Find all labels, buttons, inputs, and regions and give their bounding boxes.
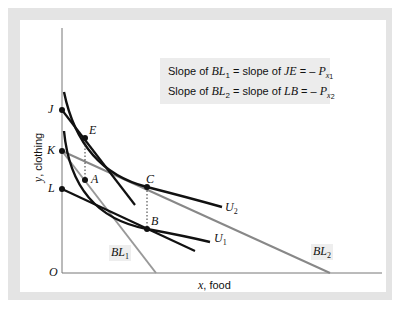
curve-sub: 1 [125,252,129,261]
legend-math: LB [284,84,298,98]
label-e: E [89,123,96,138]
diagram-canvas [0,0,395,313]
label-bl2: BL2 [311,244,333,260]
label-u1: U1 [214,231,227,247]
legend-text: Slope of [168,85,211,97]
point-a [82,177,88,183]
budget-line-bl2 [62,151,330,273]
slope-legend: Slope of BL1 = slope of JE = – Px1 Slope… [160,58,330,104]
point-j [59,107,65,113]
legend-text: = slope of [230,65,284,77]
curve-sub: 1 [223,238,227,247]
legend-math: BL [211,64,225,78]
point-e [82,135,88,141]
curve-name: U [214,231,223,245]
curve-name: BL [313,244,327,258]
legend-subsub: 2 [331,93,335,100]
curve-name: BL [111,245,125,259]
y-axis-text: , clothing [32,133,44,177]
indifference-curve-u2 [64,92,222,207]
legend-line-2: Slope of BL2 = slope of LB = – Px2 [168,84,335,100]
label-u2: U2 [225,200,238,216]
label-b: B [151,214,158,229]
legend-text: Slope of [168,65,211,77]
label-a: A [91,172,98,187]
figure-frame: Slope of BL1 = slope of JE = – Px1 Slope… [0,0,395,313]
legend-text: = – [297,65,319,77]
y-axis-var: y [31,177,45,182]
curve-sub: 2 [327,251,331,260]
legend-math: JE [284,64,297,78]
label-origin: O [49,265,58,280]
curve-sub: 2 [234,207,238,216]
legend-math: P [318,64,325,78]
point-l [59,186,65,192]
label-c: C [146,172,154,187]
label-k: K [47,143,55,158]
point-b [144,226,150,232]
legend-line-1: Slope of BL1 = slope of JE = – Px1 [168,64,333,80]
legend-math: P [320,84,327,98]
label-bl1: BL1 [109,245,131,261]
point-k [59,148,65,154]
x-axis-label: x, food [198,278,231,293]
x-axis-text: , food [203,279,231,291]
label-l: L [48,181,55,196]
legend-math: BL [211,84,225,98]
y-axis-label: y, clothing [31,118,46,198]
curve-name: U [225,200,234,214]
legend-text: = slope of [230,85,284,97]
label-j: J [48,102,53,117]
legend-subsub: 1 [329,73,333,80]
legend-text: = – [298,85,320,97]
